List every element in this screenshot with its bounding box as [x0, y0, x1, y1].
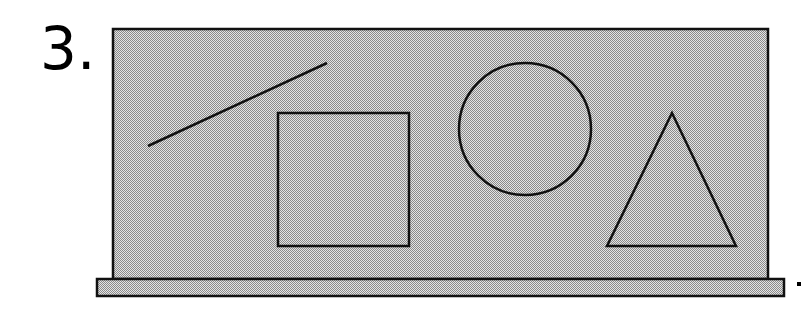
shapes-diagram	[0, 0, 805, 311]
board	[113, 29, 768, 279]
trailing-dot	[797, 282, 801, 286]
board-base	[97, 279, 784, 296]
